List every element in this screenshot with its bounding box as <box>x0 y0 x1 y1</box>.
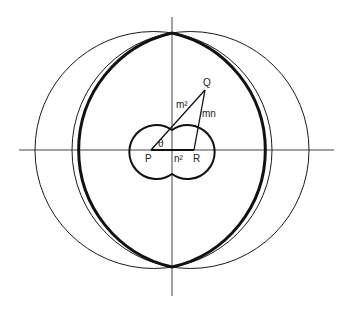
label-m2: m² <box>176 99 188 110</box>
label-mn: mn <box>202 108 216 119</box>
diagram-figure: Q m² mn θ P n² R <box>0 0 349 316</box>
label-R: R <box>193 153 200 164</box>
label-n2: n² <box>174 153 184 164</box>
label-theta: θ <box>158 138 164 149</box>
label-Q: Q <box>203 77 211 88</box>
segment-RQ <box>194 90 205 150</box>
label-P: P <box>145 153 152 164</box>
